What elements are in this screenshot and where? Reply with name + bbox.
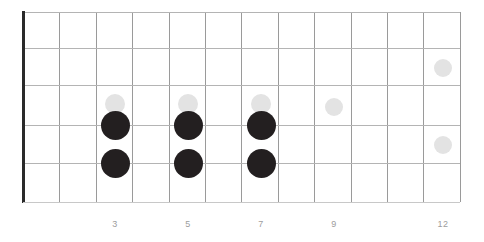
string-line-0: [23, 12, 460, 13]
fret-number-label-9: 9: [314, 218, 354, 230]
fretboard-diagram: 357912: [0, 0, 484, 242]
fret-number-label-3: 3: [95, 218, 135, 230]
fret-line-9: [351, 12, 352, 202]
fret-line-3: [132, 12, 133, 202]
fret-line-1: [59, 12, 60, 202]
fret-line-11: [423, 12, 424, 202]
note-dot-root-f5-s4[interactable]: [174, 149, 203, 178]
fretboard-bottom-edge: [23, 202, 460, 203]
string-line-3: [23, 125, 460, 126]
fret-line-2: [96, 12, 97, 202]
fret-line-10: [387, 12, 388, 202]
fret-line-5: [205, 12, 206, 202]
fret-number-label-12: 12: [423, 218, 463, 230]
note-dot-root-f5-s3[interactable]: [174, 111, 203, 140]
note-dot-root-f7-s3[interactable]: [247, 111, 276, 140]
note-dot-ghost-f9-s2[interactable]: [325, 98, 343, 116]
note-dot-ghost-f12-s3[interactable]: [434, 136, 452, 154]
fret-line-4: [169, 12, 170, 202]
fret-line-7: [278, 12, 279, 202]
note-dot-root-f3-s3[interactable]: [101, 111, 130, 140]
string-line-1: [23, 48, 460, 49]
fret-number-label-7: 7: [241, 218, 281, 230]
note-dot-ghost-f12-s1[interactable]: [434, 59, 452, 77]
note-dot-root-f7-s4[interactable]: [247, 149, 276, 178]
fretboard-grid: [23, 12, 460, 202]
fret-line-8: [314, 12, 315, 202]
fret-line-6: [241, 12, 242, 202]
fret-number-label-5: 5: [168, 218, 208, 230]
note-dot-root-f3-s4[interactable]: [101, 149, 130, 178]
fret-line-12: [460, 12, 461, 202]
string-line-2: [23, 85, 460, 86]
nut-line: [22, 11, 25, 203]
string-line-4: [23, 163, 460, 164]
